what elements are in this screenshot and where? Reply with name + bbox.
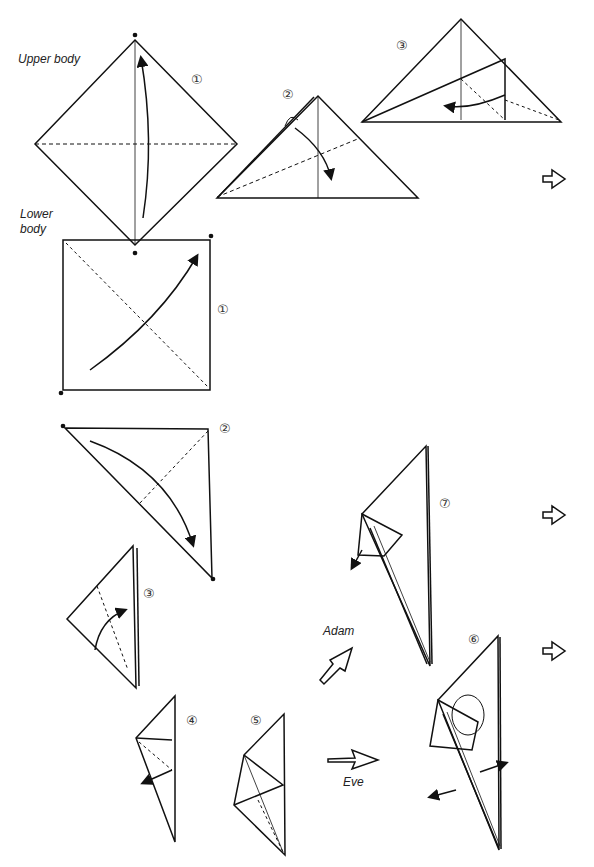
step-number-lower-7: ⑦ xyxy=(439,496,451,511)
step-number-lower-3: ③ xyxy=(143,586,155,601)
step-number-upper-3: ③ xyxy=(396,38,408,53)
step-number-upper-1: ① xyxy=(191,72,203,87)
upper-step-1-diamond xyxy=(35,33,237,254)
step-number-lower-4: ④ xyxy=(186,713,198,728)
eve-arrow-icon xyxy=(328,750,378,769)
adam-label: Adam xyxy=(323,624,354,638)
lower-body-label-line1: Lower xyxy=(20,207,53,221)
lower-body-label-line2: body xyxy=(20,222,46,236)
adam-arrow-icon xyxy=(320,648,352,684)
continue-arrow-icon xyxy=(543,642,565,660)
step-number-lower-2: ② xyxy=(219,421,231,436)
lower-step-5-shape xyxy=(234,714,285,855)
step-number-lower-5: ⑤ xyxy=(250,713,262,728)
upper-body-label: Upper body xyxy=(18,52,80,66)
lower-step-7-shape xyxy=(352,446,432,666)
continue-arrow-icon xyxy=(543,506,565,524)
lower-step-1-square xyxy=(59,234,212,394)
step-number-lower-1: ① xyxy=(217,302,229,317)
origami-diagram xyxy=(0,0,594,867)
lower-step-4-shape xyxy=(136,696,175,842)
lower-step-6-shape xyxy=(430,636,506,850)
step-number-upper-2: ② xyxy=(282,87,294,102)
lower-step-2-triangle xyxy=(61,424,214,580)
upper-step-3-triangle xyxy=(362,19,561,122)
step-number-lower-6: ⑥ xyxy=(468,632,480,647)
lower-step-3-shape xyxy=(67,546,139,688)
continue-arrow-icon xyxy=(543,170,565,188)
eve-label: Eve xyxy=(343,775,364,789)
